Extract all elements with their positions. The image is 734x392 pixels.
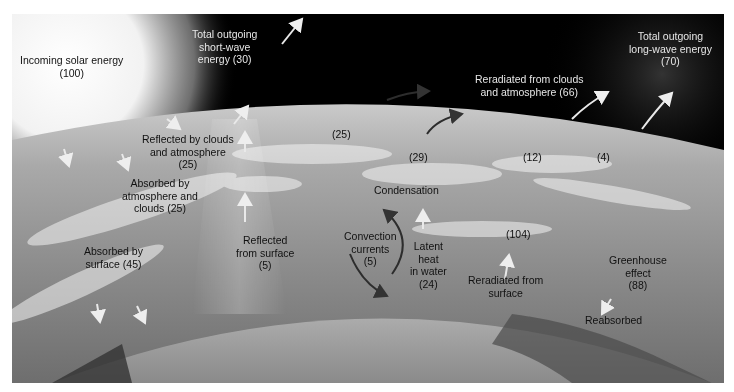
value-4: (4) [597, 151, 610, 164]
reradiated-surface-label: Reradiated from surface [468, 274, 543, 299]
value-12: (12) [523, 151, 542, 164]
outgoing-shortwave-label: Total outgoing short-wave energy (30) [192, 28, 257, 66]
absorbed-atmosphere-label: Absorbed by atmosphere and clouds (25) [122, 177, 198, 215]
convection-currents-label: Convection currents (5) [344, 230, 397, 268]
value-29: (29) [409, 151, 428, 164]
latent-heat-label: Latent heat in water (24) [410, 240, 447, 290]
value-25: (25) [332, 128, 351, 141]
absorbed-surface-label: Absorbed by surface (45) [84, 245, 143, 270]
reabsorbed-label: Reabsorbed [585, 314, 642, 327]
greenhouse-effect-label: Greenhouse effect (88) [609, 254, 667, 292]
value-104: (104) [506, 228, 531, 241]
incoming-solar-label: Incoming solar energy (100) [20, 54, 123, 79]
reradiated-clouds-label: Reradiated from clouds and atmosphere (6… [475, 73, 584, 98]
outgoing-longwave-label: Total outgoing long-wave energy (70) [629, 30, 712, 68]
condensation-label: Condensation [374, 184, 439, 197]
reflected-surface-label: Reflected from surface (5) [236, 234, 294, 272]
reflected-clouds-label: Reflected by clouds and atmosphere (25) [142, 133, 234, 171]
energy-budget-diagram: Incoming solar energy (100) Total outgoi… [12, 14, 724, 383]
